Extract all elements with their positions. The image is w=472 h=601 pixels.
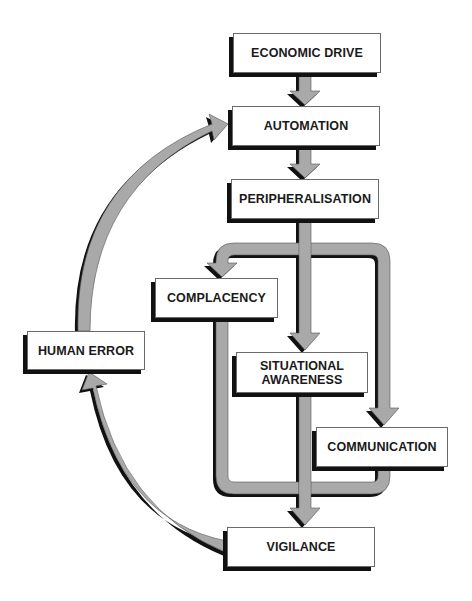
node-economic-drive: ECONOMIC DRIVE [233, 33, 381, 73]
node-label: AUTOMATION [264, 119, 349, 133]
node-label: VIGILANCE [267, 540, 336, 554]
arrow-vigilance-to-human-error [82, 372, 227, 553]
node-communication: COMMUNICATION [316, 427, 448, 467]
node-automation: AUTOMATION [232, 106, 380, 146]
node-complacency: COMPLACENCY [155, 278, 278, 318]
node-vigilance: VIGILANCE [227, 527, 375, 567]
node-human-error: HUMAN ERROR [27, 331, 145, 370]
node-label: HUMAN ERROR [38, 344, 134, 358]
node-label: PERIPHERALISATION [239, 192, 371, 206]
arrow-peripheralisation-to-situational-awareness [290, 219, 320, 350]
node-situational-awareness: SITUATIONAL AWARENESS [236, 352, 368, 393]
flowchart-diagram: ECONOMIC DRIVE AUTOMATION PERIPHERALISAT… [0, 0, 472, 601]
node-label: ECONOMIC DRIVE [251, 46, 363, 60]
node-peripheralisation: PERIPHERALISATION [231, 179, 379, 219]
arrow-complacency-to-merge [216, 318, 299, 494]
node-label-line2: AWARENESS [262, 373, 343, 387]
arrow-branch-to-complacency [207, 243, 299, 277]
arrow-branch-to-communication [311, 243, 399, 425]
node-label-line1: SITUATIONAL [260, 359, 344, 373]
node-label: COMPLACENCY [167, 291, 266, 305]
node-label: COMMUNICATION [327, 440, 436, 454]
arrow-communication-to-merge [311, 467, 390, 494]
